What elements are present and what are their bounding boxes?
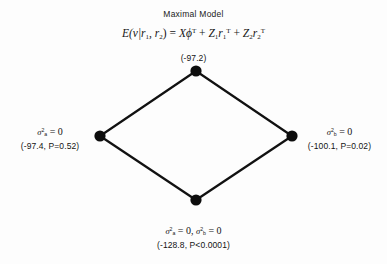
edge-right-bottom	[196, 136, 292, 200]
both-sigma-zero-node-value: (-128.8, P<0.0001)	[0, 239, 387, 251]
sigma-b-zero-node-value: (-100.1, P=0.02)	[292, 140, 387, 152]
bottom-sigma-b-equals-zero: = 0	[206, 225, 222, 236]
sigma-a-zero-node-label: σ2a = 0 (-97.4, P=0.52)	[0, 125, 100, 152]
edge-left-bottom	[100, 136, 196, 200]
bottom-sigma-a-equals-zero: = 0,	[175, 225, 196, 236]
sigma-a-constraint: σ2a = 0	[0, 125, 100, 140]
maximal-model-node-value: (-97.2)	[181, 53, 207, 63]
model-lattice-figure: Maximal Model E(v|r1, r2) = XϕT + Z1r1T …	[0, 0, 387, 264]
both-sigma-zero-node[interactable]	[190, 194, 201, 205]
sigma-b-constraint: σ2b = 0	[292, 125, 387, 140]
maximal-model-node-label: (-97.2)	[0, 52, 387, 64]
maximal-model-node[interactable]	[190, 65, 201, 76]
sigma-b-equals-zero: = 0	[337, 126, 353, 137]
edge-top-left	[100, 71, 196, 136]
sigma-b-zero-node-label: σ2b = 0 (-100.1, P=0.02)	[292, 125, 387, 152]
both-sigma-zero-node-label: σ2a = 0, σ2b = 0 (-128.8, P<0.0001)	[0, 224, 387, 251]
edge-top-right	[196, 71, 292, 136]
sigma-a-equals-zero: = 0	[47, 126, 63, 137]
sigma-a-zero-node-value: (-97.4, P=0.52)	[0, 140, 100, 152]
both-sigma-constraint: σ2a = 0, σ2b = 0	[0, 224, 387, 239]
